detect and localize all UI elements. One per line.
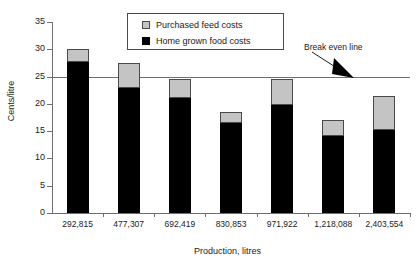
x-tick-mark: [103, 213, 104, 217]
y-tick-label: 35: [35, 16, 45, 26]
x-tick-mark: [154, 213, 155, 217]
y-tick-mark: [47, 186, 52, 187]
y-tick-mark: [47, 158, 52, 159]
x-tick-mark: [359, 213, 360, 217]
x-tick-mark: [205, 213, 206, 217]
legend-swatch-icon-purchased: [142, 21, 150, 29]
y-tick-label: 15: [35, 125, 45, 135]
bar-column: [322, 120, 344, 213]
legend-label-homegrown: Home grown food costs: [156, 36, 251, 46]
bar-segment-purchased-feed: [373, 96, 395, 130]
bar-segment-purchased-feed: [118, 63, 140, 88]
bar-segment-home-grown: [67, 62, 89, 213]
x-tick-label: 830,853: [216, 219, 247, 229]
bar-segment-home-grown: [169, 98, 191, 213]
x-tick-label: 2,403,554: [366, 219, 404, 229]
bar-segment-purchased-feed: [67, 49, 89, 62]
y-tick-label: 30: [35, 43, 45, 53]
bar-segment-purchased-feed: [322, 120, 344, 136]
y-tick-mark: [47, 22, 52, 23]
legend-item-home-grown-food-costs: Home grown food costs: [128, 33, 283, 49]
y-tick-label: 5: [40, 180, 45, 190]
x-tick-label: 692,419: [164, 219, 195, 229]
y-tick-mark: [47, 131, 52, 132]
legend-item-purchased-feed-costs: Purchased feed costs: [128, 17, 283, 33]
bar-segment-home-grown: [373, 130, 395, 213]
bar-column: [118, 63, 140, 213]
y-tick-label: 0: [40, 207, 45, 217]
y-tick-mark: [47, 104, 52, 105]
bar-column: [271, 79, 293, 213]
x-axis-line: [52, 213, 410, 214]
legend-swatch-icon-homegrown: [142, 37, 150, 45]
x-tick-label: 971,922: [267, 219, 298, 229]
y-axis-line: [52, 22, 53, 214]
bar-column: [67, 49, 89, 213]
y-axis-title: Cents/litre: [6, 66, 16, 136]
stacked-bar-chart: Cents/litre 05101520253035 292,815477,30…: [0, 0, 416, 269]
bar-segment-purchased-feed: [169, 79, 191, 98]
y-tick-mark: [47, 49, 52, 50]
bar-column: [220, 112, 242, 213]
bar-column: [169, 79, 191, 213]
x-tick-label: 292,815: [62, 219, 93, 229]
x-tick-mark: [257, 213, 258, 217]
bar-segment-purchased-feed: [220, 112, 242, 123]
reference-line: [52, 77, 410, 78]
bar-column: [373, 96, 395, 213]
x-tick-label: 1,218,088: [314, 219, 352, 229]
legend-label-purchased: Purchased feed costs: [156, 20, 243, 30]
bar-segment-purchased-feed: [271, 79, 293, 105]
bar-segment-home-grown: [220, 123, 242, 213]
chart-legend: Purchased feed costs Home grown food cos…: [127, 13, 284, 50]
x-tick-mark: [308, 213, 309, 217]
y-tick-mark: [47, 213, 52, 214]
x-axis-title: Production, litres: [45, 246, 410, 256]
y-tick-label: 25: [35, 71, 45, 81]
bar-segment-home-grown: [271, 105, 293, 213]
break-even-annotation-label: Break even line: [304, 42, 363, 52]
x-tick-mark: [410, 213, 411, 217]
x-tick-label: 477,307: [113, 219, 144, 229]
bar-segment-home-grown: [118, 88, 140, 214]
y-tick-label: 10: [35, 152, 45, 162]
bar-segment-home-grown: [322, 136, 344, 213]
y-tick-label: 20: [35, 98, 45, 108]
